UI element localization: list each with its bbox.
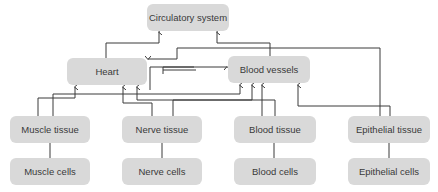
- node-blood-tissue: Blood tissue: [234, 116, 316, 143]
- node-epithelial-cells: Epithelial cells: [348, 158, 430, 185]
- node-nerve-tissue: Nerve tissue: [122, 116, 202, 143]
- node-blood-cells: Blood cells: [234, 158, 316, 185]
- node-blood-vessels: Blood vessels: [228, 56, 310, 83]
- node-nerve-cells: Nerve cells: [122, 158, 202, 185]
- node-circulatory-system: Circulatory system: [147, 4, 229, 31]
- node-muscle-cells: Muscle cells: [10, 158, 90, 185]
- node-heart: Heart: [67, 58, 147, 85]
- node-muscle-tissue: Muscle tissue: [10, 116, 90, 143]
- node-epithelial-tissue: Epithelial tissue: [348, 116, 430, 143]
